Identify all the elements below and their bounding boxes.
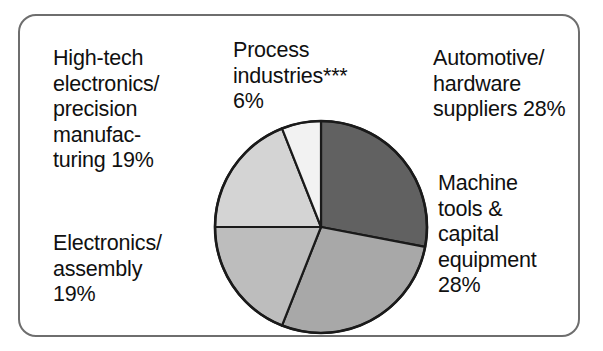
pie-slice-automotive-hardware-suppliers	[321, 121, 427, 247]
pie-label-automotive-hardware-suppliers: Automotive/ hardware suppliers 28%	[433, 46, 603, 123]
pie-label-machine-tools-capital-equipment: Machine tools & capital equipment 28%	[438, 171, 603, 299]
pie-label-process-industries: Process industries*** 6%	[233, 38, 418, 115]
pie-chart	[213, 119, 429, 335]
pie-label-electronics-assembly: Electronics/ assembly 19%	[53, 231, 228, 308]
figure-frame: High-tech electronics/ precision manufac…	[18, 14, 580, 337]
pie-label-high-tech-electronics: High-tech electronics/ precision manufac…	[53, 46, 228, 174]
